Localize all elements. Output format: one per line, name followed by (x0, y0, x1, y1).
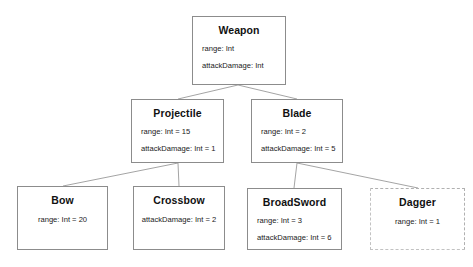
edge-blade-to-broadsword (294, 163, 297, 188)
attribute-dagger-0: range: Int = 1 (371, 217, 464, 226)
attribute-bow-0: range: Int = 20 (18, 215, 107, 224)
class-name-crossbow: Crossbow (134, 194, 224, 206)
class-node-blade[interactable]: Bladerange: Int = 2attackDamage: Int = 5 (251, 99, 343, 163)
class-name-projectile: Projectile (132, 107, 223, 119)
attribute-blade-1: attackDamage: Int = 5 (261, 144, 342, 153)
class-name-weapon: Weapon (193, 24, 285, 36)
attribute-weapon-1: attackDamage: Int (202, 61, 285, 70)
class-node-bow[interactable]: Bowrange: Int = 20 (17, 186, 108, 250)
class-name-dagger: Dagger (371, 196, 464, 208)
attribute-weapon-0: range: Int (202, 44, 285, 53)
attribute-broadsword-0: range: Int = 3 (257, 216, 341, 225)
edge-projectile-to-bow (63, 163, 178, 186)
class-node-weapon[interactable]: Weaponrange: IntattackDamage: Int (192, 16, 286, 85)
attribute-projectile-0: range: Int = 15 (141, 127, 223, 136)
attribute-list-dagger: range: Int = 1 (371, 217, 464, 226)
edge-weapon-to-blade (238, 85, 297, 99)
attribute-projectile-1: attackDamage: Int = 1 (141, 144, 223, 153)
attribute-list-broadsword: range: Int = 3attackDamage: Int = 6 (248, 216, 341, 242)
class-diagram-canvas: Weaponrange: IntattackDamage: IntProject… (0, 0, 473, 267)
edge-blade-to-dagger (297, 163, 418, 188)
edge-weapon-to-projectile (178, 85, 238, 99)
attribute-list-blade: range: Int = 2attackDamage: Int = 5 (252, 127, 342, 153)
attribute-crossbow-0: attackDamage: Int = 2 (134, 215, 224, 224)
attribute-list-crossbow: attackDamage: Int = 2 (134, 215, 224, 224)
class-node-projectile[interactable]: Projectilerange: Int = 15attackDamage: I… (131, 99, 224, 163)
attribute-list-bow: range: Int = 20 (18, 215, 107, 224)
class-name-bow: Bow (18, 194, 107, 206)
class-node-crossbow[interactable]: CrossbowattackDamage: Int = 2 (133, 186, 225, 250)
class-name-blade: Blade (252, 107, 342, 119)
attribute-list-weapon: range: IntattackDamage: Int (193, 44, 285, 70)
attribute-list-projectile: range: Int = 15attackDamage: Int = 1 (132, 127, 223, 153)
class-name-broadsword: BroadSword (248, 196, 341, 208)
edge-projectile-to-crossbow (178, 163, 179, 186)
class-node-broadsword[interactable]: BroadSwordrange: Int = 3attackDamage: In… (247, 188, 342, 250)
attribute-broadsword-1: attackDamage: Int = 6 (257, 233, 341, 242)
attribute-blade-0: range: Int = 2 (261, 127, 342, 136)
class-node-dagger[interactable]: Daggerrange: Int = 1 (370, 188, 465, 250)
